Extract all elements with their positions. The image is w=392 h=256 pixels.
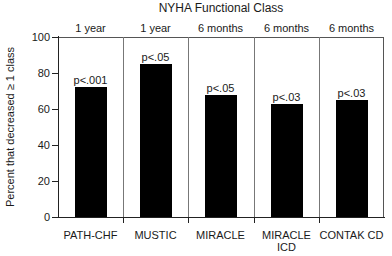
y-tick-label: 60 (20, 103, 50, 115)
follow-up-period-label: 6 months (319, 22, 384, 34)
bar (336, 100, 368, 217)
panel-contak-cd: 6 monthsp<.03CONTAK CD (319, 0, 384, 256)
p-value-label: p<.03 (254, 91, 319, 103)
p-value-label: p<.05 (123, 51, 188, 63)
panel-miracle: 6 monthsp<.05MIRACLE (188, 0, 253, 256)
p-value-label: p<.03 (319, 87, 384, 99)
category-label: MIRACLE (182, 229, 259, 241)
y-tick-label: 100 (20, 31, 50, 43)
panel-path-chf: 1 yearp<.001PATH-CHF (58, 0, 123, 256)
panel-mustic: 1 yearp<.05MUSTIC (123, 0, 188, 256)
follow-up-period-label: 6 months (188, 22, 253, 34)
category-label: CONTAK CD (313, 229, 390, 241)
panel-miracle-icd: 6 monthsp<.03MIRACLE ICD (254, 0, 319, 256)
follow-up-period-label: 6 months (254, 22, 319, 34)
bar (75, 87, 107, 217)
bar (205, 95, 237, 217)
y-axis-label: Percent that decreased ≥ 1 class (3, 27, 17, 227)
y-tick-label: 0 (20, 211, 50, 223)
bar (140, 64, 172, 217)
p-value-label: p<.05 (188, 82, 253, 94)
follow-up-period-label: 1 year (58, 22, 123, 34)
p-value-label: p<.001 (58, 74, 123, 86)
y-tick-label: 20 (20, 175, 50, 187)
bar (271, 104, 303, 217)
y-tick-label: 40 (20, 139, 50, 151)
category-label: MIRACLE ICD (262, 229, 311, 253)
y-tick-label: 80 (20, 67, 50, 79)
follow-up-period-label: 1 year (123, 22, 188, 34)
